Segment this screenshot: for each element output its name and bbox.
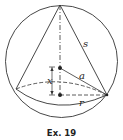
base-center-dot <box>58 93 62 97</box>
label-s: s <box>83 38 88 49</box>
x-dim-arrow-top <box>50 68 53 72</box>
sphere-outline <box>6 6 118 118</box>
label-x: x <box>47 75 53 86</box>
cone-base-front-arc <box>16 89 107 105</box>
cone-left-side <box>16 5 60 89</box>
base-edge-dot <box>106 94 109 97</box>
x-dim-arrow-bottom <box>50 91 53 95</box>
diagram: s a x r Ex. 19 <box>0 0 123 140</box>
sphere-center-dot <box>58 66 62 70</box>
cone-base-back-arc <box>16 82 107 95</box>
label-a: a <box>79 70 85 81</box>
figure-caption: Ex. 19 <box>47 128 76 138</box>
